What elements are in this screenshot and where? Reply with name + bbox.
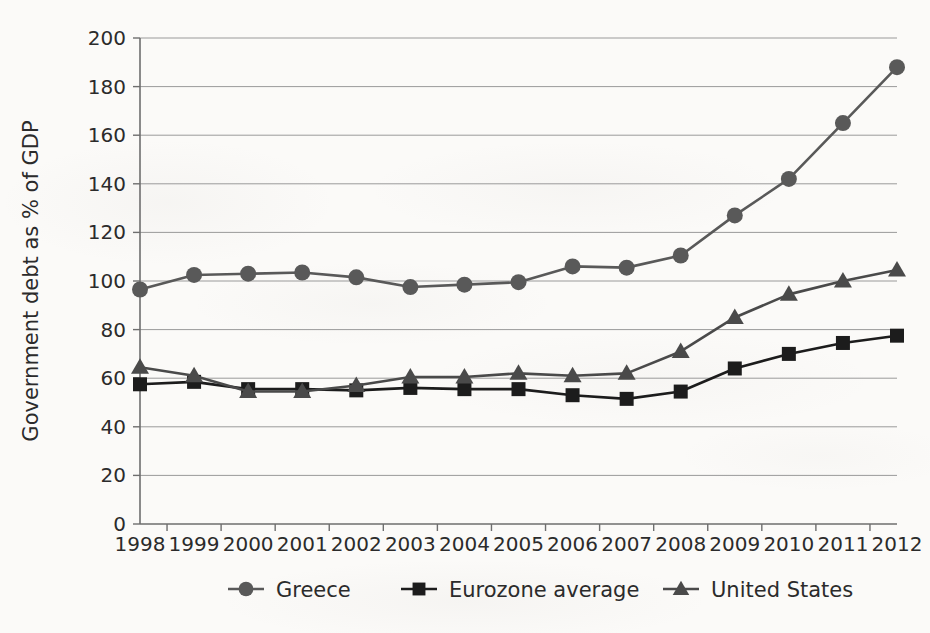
y-tick-label: 140 — [88, 172, 126, 196]
legend-item-eurozone-average[interactable]: Eurozone average — [401, 578, 639, 602]
y-tick-label: 120 — [88, 220, 126, 244]
square-marker — [890, 329, 904, 343]
x-tick-label: 2002 — [331, 532, 382, 556]
y-tick-label: 80 — [101, 318, 126, 342]
triangle-marker — [510, 364, 528, 379]
y-tick-label: 20 — [101, 463, 126, 487]
legend-item-greece[interactable]: Greece — [228, 578, 351, 602]
x-tick-label: 2004 — [439, 532, 490, 556]
circle-marker — [781, 171, 797, 187]
legend-item-united-states[interactable]: United States — [663, 578, 853, 602]
x-tick-label: 2012 — [872, 532, 923, 556]
square-marker — [457, 382, 471, 396]
square-marker — [620, 392, 634, 406]
x-tick-label: 1998 — [115, 532, 166, 556]
square-marker — [674, 385, 688, 399]
x-tick-label: 2007 — [601, 532, 652, 556]
circle-marker — [511, 274, 527, 290]
circle-marker — [889, 59, 905, 75]
x-axis-tick-labels: 1998199920002001200220032004200520062007… — [115, 532, 923, 556]
square-marker — [413, 583, 426, 596]
triangle-marker — [888, 261, 906, 276]
y-axis-title: Government debt as % of GDP — [19, 120, 43, 441]
x-tick-label: 2006 — [547, 532, 598, 556]
square-marker — [836, 336, 850, 350]
circle-marker — [619, 260, 635, 276]
circle-marker — [727, 207, 743, 223]
triangle-marker — [672, 342, 690, 357]
x-tick-label: 2010 — [763, 532, 814, 556]
y-tick-label: 200 — [88, 26, 126, 50]
legend-label: United States — [711, 578, 853, 602]
x-tick-label: 1999 — [169, 532, 220, 556]
y-tick-label: 60 — [101, 366, 126, 390]
circle-marker — [132, 282, 148, 298]
chart-legend: GreeceEurozone averageUnited States — [228, 578, 853, 602]
legend-label: Eurozone average — [449, 578, 639, 602]
x-axis-tick-marks — [167, 524, 870, 531]
square-marker — [566, 388, 580, 402]
square-marker — [782, 347, 796, 361]
y-tick-label: 180 — [88, 75, 126, 99]
series-greece — [132, 59, 905, 297]
circle-marker — [565, 258, 581, 274]
circle-marker — [240, 266, 256, 282]
x-tick-label: 2003 — [385, 532, 436, 556]
x-tick-label: 2005 — [493, 532, 544, 556]
x-tick-label: 2008 — [655, 532, 706, 556]
line-chart: 020406080100120140160180200 199819992000… — [0, 0, 930, 633]
square-marker — [133, 377, 147, 391]
legend-label: Greece — [276, 578, 351, 602]
circle-marker — [456, 277, 472, 293]
y-axis-tick-labels: 020406080100120140160180200 — [88, 26, 126, 536]
square-marker — [512, 382, 526, 396]
x-tick-label: 2001 — [277, 532, 328, 556]
circle-marker — [673, 247, 689, 263]
circle-marker — [294, 264, 310, 280]
square-marker — [728, 361, 742, 375]
gridlines — [140, 38, 897, 475]
triangle-marker — [726, 308, 744, 323]
y-tick-label: 100 — [88, 269, 126, 293]
y-axis-tick-marks — [133, 38, 140, 524]
triangle-marker — [131, 358, 149, 373]
circle-marker — [835, 115, 851, 131]
x-tick-label: 2011 — [817, 532, 868, 556]
x-tick-label: 2009 — [709, 532, 760, 556]
x-tick-label: 2000 — [223, 532, 274, 556]
circle-marker — [239, 582, 254, 597]
y-tick-label: 160 — [88, 123, 126, 147]
y-tick-label: 40 — [101, 415, 126, 439]
circle-marker — [348, 269, 364, 285]
circle-marker — [402, 279, 418, 295]
chart-page: 020406080100120140160180200 199819992000… — [0, 0, 930, 633]
circle-marker — [186, 267, 202, 283]
